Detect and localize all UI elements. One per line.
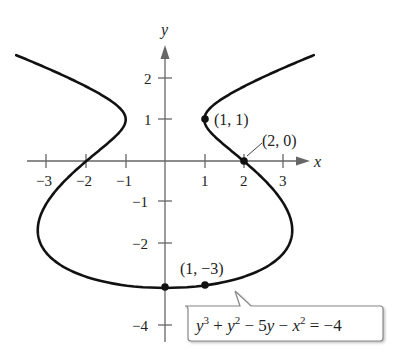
point-0-neg3 — [161, 283, 169, 291]
x-tick-labels: −3 −2 −1 1 2 3 — [36, 173, 287, 189]
y-axis: y — [159, 21, 170, 342]
point-1-1 — [201, 115, 209, 123]
label-point-2-0: (2, 0) — [262, 132, 297, 150]
y-tick-label: 2 — [144, 71, 152, 87]
x-tick-label: −3 — [36, 173, 52, 189]
y-tick-label: −4 — [132, 318, 148, 334]
point-1-neg3 — [201, 281, 209, 289]
y-tick-label: −2 — [132, 236, 148, 252]
y-axis-arrow-icon — [161, 45, 170, 59]
y-tick-label: −1 — [132, 194, 148, 210]
x-tick-label: 1 — [201, 173, 209, 189]
y-tick-label: 1 — [144, 112, 152, 128]
equation-callout: y3 + y2 − 5y − x2 = −4 — [185, 291, 383, 341]
y-tick-labels: 2 1 −1 −2 −4 — [132, 71, 152, 334]
x-axis-label: x — [313, 153, 321, 170]
label-point-1-1: (1, 1) — [214, 111, 249, 129]
label-point-1-neg3: (1, −3) — [180, 260, 224, 278]
leader-line-2-0 — [247, 143, 262, 156]
equation-text: y3 + y2 − 5y − x2 = −4 — [194, 314, 342, 335]
x-tick-label: −2 — [76, 173, 92, 189]
x-tick-label: 2 — [240, 173, 248, 189]
point-2-0 — [240, 157, 248, 165]
x-axis: x — [27, 153, 321, 170]
x-tick-label: −1 — [116, 173, 132, 189]
graph-canvas: x y −3 −2 −1 1 2 3 2 1 −1 −2 −4 — [0, 0, 398, 359]
x-tick-label: 3 — [279, 173, 287, 189]
y-axis-label: y — [159, 21, 169, 39]
x-axis-arrow-icon — [296, 157, 310, 166]
